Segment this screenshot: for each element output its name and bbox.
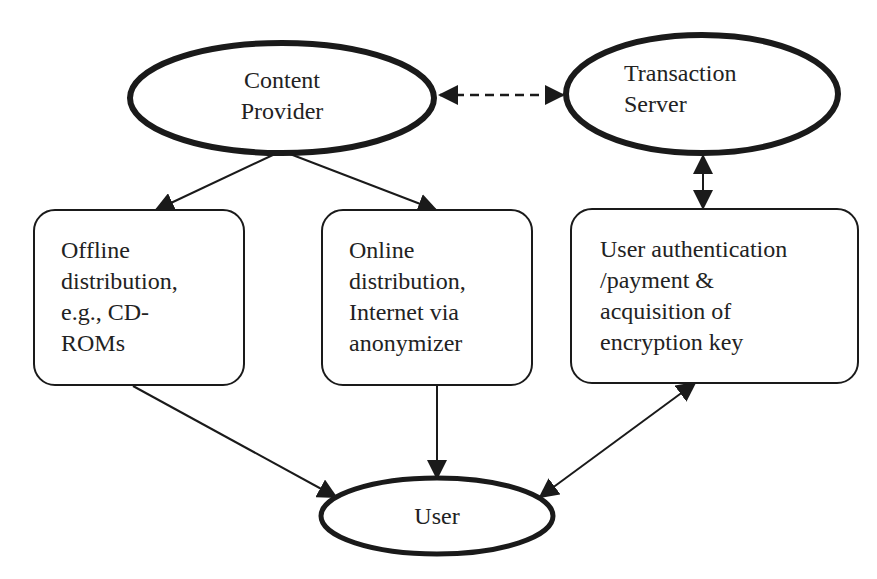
auth-line4: encryption key: [600, 327, 857, 358]
offline-distribution-label: Offline distribution, e.g., CD- ROMs: [35, 211, 243, 359]
transaction-server-label: Transaction Server: [624, 58, 736, 120]
offline-line4: ROMs: [61, 328, 243, 359]
edge-provider-offline: [156, 154, 275, 210]
transaction-server-line1: Transaction: [624, 58, 736, 89]
auth-line2: /payment &: [600, 265, 857, 296]
offline-line3: e.g., CD-: [61, 297, 243, 328]
auth-line3: acquisition of: [600, 296, 857, 327]
content-provider-line1: Content: [182, 65, 382, 96]
auth-payment-label: User authentication /payment & acquisiti…: [572, 210, 857, 358]
auth-payment-node: User authentication /payment & acquisiti…: [570, 208, 859, 384]
content-provider-label: Content Provider: [182, 65, 382, 127]
online-distribution-label: Online distribution, Internet via anonym…: [323, 211, 531, 359]
user-line1: User: [387, 501, 487, 532]
user-label: User: [387, 501, 487, 532]
content-provider-line2: Provider: [182, 96, 382, 127]
online-line2: distribution,: [349, 266, 531, 297]
online-distribution-node: Online distribution, Internet via anonym…: [321, 209, 533, 386]
online-line4: anonymizer: [349, 328, 531, 359]
offline-distribution-node: Offline distribution, e.g., CD- ROMs: [33, 209, 245, 386]
transaction-server-line2: Server: [624, 89, 736, 120]
edge-offline-user: [133, 386, 336, 497]
offline-line2: distribution,: [61, 266, 243, 297]
edge-provider-online: [290, 154, 436, 210]
online-line1: Online: [349, 235, 531, 266]
offline-line1: Offline: [61, 235, 243, 266]
edge-auth-user: [540, 383, 695, 497]
online-line3: Internet via: [349, 297, 531, 328]
auth-line1: User authentication: [600, 234, 857, 265]
